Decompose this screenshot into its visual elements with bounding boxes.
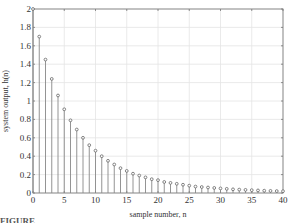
stem-marker — [138, 174, 141, 177]
stem-marker — [38, 35, 41, 38]
stem-marker — [157, 179, 160, 182]
stem-marker — [69, 119, 72, 122]
y-tick-label: 1.6 — [20, 41, 32, 51]
stem-marker — [113, 163, 116, 166]
stem-marker — [225, 187, 228, 190]
y-tick-label: 1 — [27, 96, 32, 106]
stem-marker — [75, 128, 78, 131]
y-tick-label: 0 — [27, 188, 32, 198]
x-tick-label: 20 — [154, 195, 164, 205]
stem-marker — [132, 172, 135, 175]
stem-marker — [194, 185, 197, 188]
y-tick-label: 1.8 — [20, 22, 32, 32]
x-tick-label: 5 — [62, 195, 67, 205]
stem-marker — [219, 187, 222, 190]
stem-marker — [107, 159, 110, 162]
stem-marker — [269, 189, 272, 192]
y-tick-label: 1.4 — [20, 59, 32, 69]
x-tick-label: 0 — [31, 195, 36, 205]
stem-marker — [57, 94, 60, 97]
stem-marker — [238, 188, 241, 191]
x-axis-label: sample number, n — [130, 210, 187, 219]
stem-marker — [200, 186, 203, 189]
y-tick-label: 0.2 — [20, 170, 31, 180]
x-tick-label: 10 — [91, 195, 101, 205]
stem-marker — [213, 187, 216, 190]
stem-marker — [63, 108, 66, 111]
stem-chart: 051015202530354000.20.40.60.811.21.41.61… — [0, 0, 290, 223]
x-tick-label: 40 — [279, 195, 289, 205]
stem-marker — [207, 186, 210, 189]
y-tick-label: 0.8 — [20, 114, 32, 124]
stem-marker — [50, 78, 53, 81]
stem-marker — [100, 155, 103, 158]
stem-marker — [282, 190, 285, 193]
stem-marker — [163, 181, 166, 184]
stem-marker — [150, 178, 153, 181]
stem-marker — [32, 8, 35, 11]
x-tick-label: 35 — [247, 195, 257, 205]
y-tick-label: 0.4 — [20, 151, 32, 161]
stem-marker — [232, 188, 235, 191]
stem-marker — [44, 58, 47, 61]
stem-marker — [119, 167, 122, 170]
y-axis-label: system output, h(n) — [1, 70, 10, 132]
stem-marker — [144, 176, 147, 179]
stem-marker — [257, 189, 260, 192]
x-tick-label: 30 — [216, 195, 226, 205]
stem-marker — [188, 184, 191, 187]
stem-marker — [275, 190, 278, 193]
y-tick-label: 1.2 — [20, 78, 31, 88]
x-tick-label: 25 — [185, 195, 195, 205]
figure-caption: FIGURE — [0, 216, 35, 223]
stem-marker — [244, 188, 247, 191]
stem-marker — [263, 189, 266, 192]
stem-marker — [94, 149, 97, 152]
x-tick-label: 15 — [122, 195, 132, 205]
y-tick-label: 0.6 — [20, 133, 32, 143]
stem-marker — [88, 144, 91, 147]
y-tick-label: 2 — [27, 4, 32, 14]
stem-marker — [169, 181, 172, 184]
stem-marker — [250, 189, 253, 192]
stem-marker — [125, 170, 128, 173]
stem-marker — [182, 183, 185, 186]
stem-marker — [82, 136, 85, 139]
stem-marker — [175, 182, 178, 185]
